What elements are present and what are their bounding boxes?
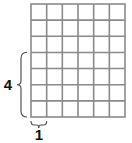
column-count-label: 1 (35, 126, 43, 143)
row-count-label: 4 (4, 76, 13, 93)
left-brace-icon (17, 52, 27, 117)
unit-grid (31, 4, 125, 117)
grid-diagram: 4 1 (0, 0, 132, 143)
